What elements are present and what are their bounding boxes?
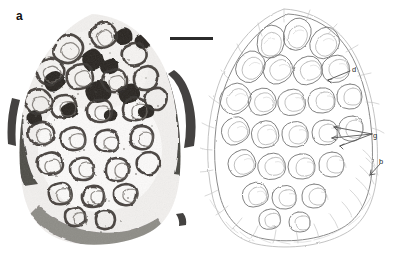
- panel-a-letter: a: [16, 10, 23, 22]
- panel-b: b: [200, 0, 399, 255]
- panel-b-line-drawing: [200, 0, 399, 255]
- figure-root: a: [0, 0, 399, 255]
- annotation-label-b: b: [379, 158, 383, 166]
- annotation-label-g: g: [373, 132, 377, 140]
- annotation-label-d: d: [352, 66, 356, 74]
- scale-bar: [170, 37, 213, 40]
